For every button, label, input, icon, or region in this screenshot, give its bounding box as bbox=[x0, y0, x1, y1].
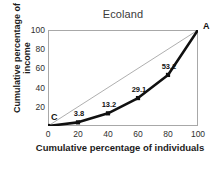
x-axis-tick-labels: 020406080100 bbox=[48, 129, 198, 141]
lorenz-curve-figure: Ecoland Cumulative percentage of income … bbox=[0, 0, 223, 175]
y-tick-label: 100 bbox=[21, 26, 45, 34]
y-tick-label: 80 bbox=[21, 45, 45, 53]
x-tick-label: 100 bbox=[185, 129, 211, 139]
data-point-marker bbox=[196, 30, 198, 32]
data-point-label: 13.2 bbox=[102, 100, 117, 109]
data-point-marker bbox=[76, 120, 80, 124]
data-point-label: 3.8 bbox=[74, 109, 84, 118]
corner-annotation-c: C bbox=[51, 112, 58, 122]
plot-area: 3.813.229.153.2 AC bbox=[48, 30, 198, 126]
y-tick-label: 20 bbox=[21, 103, 45, 111]
y-tick-label: 40 bbox=[21, 84, 45, 92]
y-axis-tick-labels: 20406080100 bbox=[20, 30, 45, 126]
x-tick-label: 80 bbox=[155, 129, 181, 139]
x-tick-label: 0 bbox=[35, 129, 61, 139]
x-axis-label: Cumulative percentage of individuals bbox=[30, 142, 210, 153]
plot-svg bbox=[48, 30, 198, 126]
data-point-marker bbox=[166, 73, 170, 77]
data-point-label: 53.2 bbox=[162, 62, 177, 71]
x-tick-label: 20 bbox=[65, 129, 91, 139]
y-tick-label: 60 bbox=[21, 64, 45, 72]
data-point-marker bbox=[48, 124, 50, 126]
x-tick-label: 60 bbox=[125, 129, 151, 139]
data-point-marker bbox=[106, 111, 110, 115]
corner-annotation-a: A bbox=[203, 21, 210, 31]
y-axis-label-container: Cumulative percentage of income bbox=[0, 0, 1, 1]
data-point-label: 29.1 bbox=[132, 85, 147, 94]
x-tick-label: 40 bbox=[95, 129, 121, 139]
chart-title: Ecoland bbox=[48, 8, 198, 20]
data-point-marker bbox=[136, 96, 140, 100]
